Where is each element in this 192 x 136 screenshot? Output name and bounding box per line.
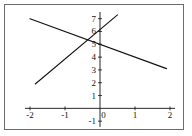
chart-frame: -2-1012-11234567 — [4, 4, 184, 130]
x-tick-label: 1 — [133, 111, 138, 120]
y-tick-label: -1 — [89, 117, 97, 126]
line-decreasing-line — [30, 19, 167, 69]
data-lines-group — [30, 15, 167, 84]
x-tick-label: 0 — [101, 111, 106, 120]
y-tick-label: 3 — [92, 65, 97, 74]
y-tick-label: 7 — [92, 14, 97, 23]
y-tick-label: 5 — [92, 40, 97, 49]
x-tick-label: -2 — [26, 111, 34, 120]
y-tick-label: 6 — [92, 27, 97, 36]
y-tick-label: 4 — [92, 53, 97, 62]
x-tick-label: -1 — [61, 111, 69, 120]
y-tick-label: 2 — [92, 78, 97, 87]
y-tick-label: 1 — [92, 91, 97, 100]
x-tick-label: 2 — [168, 111, 173, 120]
